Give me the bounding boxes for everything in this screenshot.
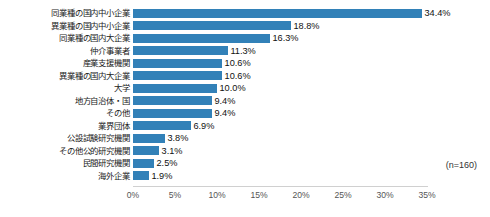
bar-row: 地方自治体・国9.4% xyxy=(0,95,490,108)
bar-and-value: 11.3% xyxy=(133,45,256,58)
category-label: 公設試験研究機関 xyxy=(0,133,130,143)
bar xyxy=(133,121,191,130)
bar-row: 民間研究機関2.5% xyxy=(0,157,490,170)
x-tick-label: 10% xyxy=(208,190,225,200)
bar-and-value: 3.8% xyxy=(133,132,188,145)
bar-value-label: 3.8% xyxy=(167,133,188,143)
bar-row: 業界団体6.9% xyxy=(0,120,490,133)
bar-and-value: 9.4% xyxy=(133,107,235,120)
bar xyxy=(133,59,222,68)
horizontal-bar-chart: 同業種の国内中小企業34.4%異業種の国内中小企業18.8%同業種の国内大企業1… xyxy=(0,0,490,217)
bar xyxy=(133,96,212,105)
bar-row: 同業種の国内大企業16.3% xyxy=(0,32,490,45)
bar-and-value: 10.6% xyxy=(133,57,251,70)
bar-row: 異業種の国内大企業10.6% xyxy=(0,70,490,83)
x-tick-label: 0% xyxy=(127,190,139,200)
bar-value-label: 2.5% xyxy=(157,158,178,168)
category-label: 民間研究機関 xyxy=(0,158,130,168)
bar-value-label: 10.6% xyxy=(225,71,251,81)
bar xyxy=(133,21,291,30)
bar-and-value: 3.1% xyxy=(133,145,182,158)
category-label: 産業支援機関 xyxy=(0,58,130,68)
bar xyxy=(133,159,154,168)
x-tick-label: 25% xyxy=(334,190,351,200)
bar-row: 産業支援機関10.6% xyxy=(0,57,490,70)
bar xyxy=(133,171,149,180)
bar xyxy=(133,134,165,143)
bar-row: 海外企業1.9% xyxy=(0,170,490,183)
bar-value-label: 10.0% xyxy=(220,83,246,93)
category-label: 異業種の国内中小企業 xyxy=(0,21,130,31)
bar-row: 仲介事業者11.3% xyxy=(0,45,490,58)
sample-size-annotation: (n=160) xyxy=(446,160,477,170)
bar-and-value: 10.6% xyxy=(133,70,251,83)
category-label: 同業種の国内中小企業 xyxy=(0,8,130,18)
chart-plot-area: 同業種の国内中小企業34.4%異業種の国内中小企業18.8%同業種の国内大企業1… xyxy=(0,0,490,185)
category-label: 業界団体 xyxy=(0,121,130,131)
category-label: 異業種の国内大企業 xyxy=(0,71,130,81)
bar-row: 同業種の国内中小企業34.4% xyxy=(0,7,490,20)
bar-value-label: 16.3% xyxy=(272,33,298,43)
x-tick-label: 15% xyxy=(250,190,267,200)
bar xyxy=(133,34,270,43)
category-label: 仲介事業者 xyxy=(0,46,130,56)
bar-value-label: 6.9% xyxy=(193,121,214,131)
bar-and-value: 34.4% xyxy=(133,7,451,20)
bar xyxy=(133,71,222,80)
bar-value-label: 3.1% xyxy=(162,146,183,156)
category-label: 大学 xyxy=(0,83,130,93)
bar-value-label: 11.3% xyxy=(230,46,255,56)
bar-row: 大学10.0% xyxy=(0,82,490,95)
x-tick-label: 5% xyxy=(169,190,181,200)
category-label: その他 xyxy=(0,108,130,118)
bar xyxy=(133,109,212,118)
bar-row: その他9.4% xyxy=(0,107,490,120)
category-label: 地方自治体・国 xyxy=(0,96,130,106)
bar xyxy=(133,146,159,155)
x-axis-line xyxy=(133,186,428,187)
bar-value-label: 34.4% xyxy=(424,8,450,18)
bar-and-value: 16.3% xyxy=(133,32,298,45)
x-tick-label: 30% xyxy=(376,190,393,200)
bar-and-value: 6.9% xyxy=(133,120,214,133)
x-axis-tick-labels: 0%5%10%15%20%25%30%35% xyxy=(0,190,490,206)
bar-row: その他公的研究機関3.1% xyxy=(0,145,490,158)
bar xyxy=(133,46,228,55)
x-tick-label: 35% xyxy=(418,190,435,200)
bar-and-value: 10.0% xyxy=(133,82,246,95)
bar-row: 公設試験研究機関3.8% xyxy=(0,132,490,145)
bar xyxy=(133,84,217,93)
bar-and-value: 9.4% xyxy=(133,95,235,108)
bar-value-label: 10.6% xyxy=(225,58,251,68)
bar xyxy=(133,9,422,18)
bar-row: 異業種の国内中小企業18.8% xyxy=(0,20,490,33)
bar-value-label: 1.9% xyxy=(151,171,172,181)
category-label: 海外企業 xyxy=(0,171,130,181)
category-label: 同業種の国内大企業 xyxy=(0,33,130,43)
bar-value-label: 9.4% xyxy=(214,96,235,106)
bar-and-value: 18.8% xyxy=(133,20,319,33)
bar-value-label: 18.8% xyxy=(293,21,319,31)
bar-and-value: 2.5% xyxy=(133,157,177,170)
category-label: その他公的研究機関 xyxy=(0,146,130,156)
bar-value-label: 9.4% xyxy=(214,108,235,118)
bar-and-value: 1.9% xyxy=(133,170,172,183)
x-tick-label: 20% xyxy=(292,190,309,200)
